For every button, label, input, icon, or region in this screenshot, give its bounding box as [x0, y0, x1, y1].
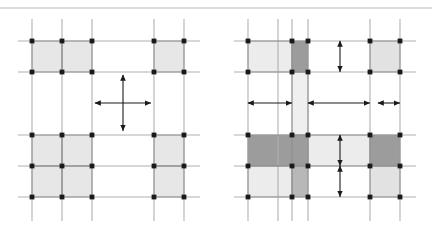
node-1-0 — [290, 39, 295, 44]
cell-br-b — [154, 166, 184, 197]
cell-r-mid-left-dark — [248, 135, 292, 166]
node-1-0 — [60, 39, 65, 44]
node-1-3 — [290, 164, 295, 169]
node-0-3 — [30, 164, 35, 169]
node-4-0 — [182, 39, 187, 44]
node-4-1 — [182, 70, 187, 75]
node-1-3 — [60, 164, 65, 169]
cell-tl-a — [32, 41, 62, 72]
node-2-2 — [306, 133, 311, 138]
cell-r-top-dark — [292, 41, 308, 72]
cell-r-bl-pale — [248, 166, 292, 197]
node-3-4 — [368, 195, 373, 200]
node-0-0 — [30, 39, 35, 44]
node-1-2 — [290, 133, 295, 138]
node-1-1 — [290, 70, 295, 75]
cell-r-bottom-spine — [292, 166, 308, 197]
node-1-4 — [290, 195, 295, 200]
cell-bl-d — [62, 166, 92, 197]
node-0-4 — [30, 195, 35, 200]
node-2-3 — [306, 164, 311, 169]
cell-r-br — [370, 166, 400, 197]
cell-tr — [154, 41, 184, 72]
node-2-4 — [306, 195, 311, 200]
node-0-0 — [246, 39, 251, 44]
node-2-0 — [306, 39, 311, 44]
node-0-2 — [246, 133, 251, 138]
node-2-3 — [90, 164, 95, 169]
cell-bl-a — [32, 135, 62, 166]
node-0-1 — [30, 70, 35, 75]
cell-tl-b — [62, 41, 92, 72]
node-2-1 — [306, 70, 311, 75]
node-3-1 — [368, 70, 373, 75]
node-3-0 — [368, 39, 373, 44]
node-0-4 — [246, 195, 251, 200]
node-4-2 — [182, 133, 187, 138]
cell-r-tr — [370, 41, 400, 72]
cell-r-mid-right-dark — [370, 135, 400, 166]
node-4-1 — [398, 70, 403, 75]
node-3-4 — [152, 195, 157, 200]
node-3-1 — [152, 70, 157, 75]
cell-bl-c — [32, 166, 62, 197]
node-2-0 — [90, 39, 95, 44]
node-3-0 — [152, 39, 157, 44]
cell-r-mid-band — [308, 135, 370, 166]
cell-r-spine-upper — [292, 72, 308, 135]
node-0-1 — [246, 70, 251, 75]
grid-diagram-svg — [0, 0, 432, 237]
node-2-2 — [90, 133, 95, 138]
node-1-1 — [60, 70, 65, 75]
cell-r-tl-pale — [248, 41, 292, 72]
canvas-background — [0, 0, 432, 237]
cell-r-mid-center-dark — [292, 135, 308, 166]
node-3-2 — [368, 133, 373, 138]
node-4-4 — [182, 195, 187, 200]
node-4-3 — [398, 164, 403, 169]
node-3-2 — [152, 133, 157, 138]
node-4-0 — [398, 39, 403, 44]
node-0-2 — [30, 133, 35, 138]
node-4-2 — [398, 133, 403, 138]
node-1-4 — [60, 195, 65, 200]
node-4-4 — [398, 195, 403, 200]
node-4-3 — [182, 164, 187, 169]
node-1-2 — [60, 133, 65, 138]
cell-br-a — [154, 135, 184, 166]
node-0-3 — [246, 164, 251, 169]
node-2-4 — [90, 195, 95, 200]
node-2-1 — [90, 70, 95, 75]
figure-root — [0, 0, 432, 237]
node-3-3 — [152, 164, 157, 169]
node-3-3 — [368, 164, 373, 169]
cell-bl-b — [62, 135, 92, 166]
